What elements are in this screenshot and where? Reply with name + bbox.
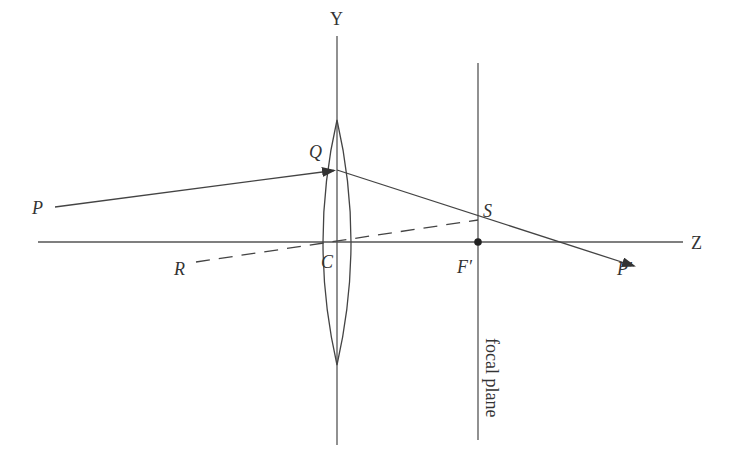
label-p-prime: P′ bbox=[616, 259, 633, 279]
focal-point-dot bbox=[474, 238, 482, 246]
label-p: P bbox=[31, 198, 43, 218]
label-z-axis: Z bbox=[691, 233, 702, 253]
label-q: Q bbox=[309, 142, 322, 162]
label-f-prime: F′ bbox=[456, 257, 473, 277]
label-y-axis: Y bbox=[330, 9, 343, 29]
label-focal-plane: focal plane bbox=[482, 338, 502, 417]
label-c: C bbox=[321, 252, 334, 272]
optics-diagram: Y Z P Q R S C F′ P′ focal plane bbox=[0, 0, 737, 465]
label-r: R bbox=[173, 259, 185, 279]
incident-ray bbox=[55, 171, 334, 208]
label-s: S bbox=[483, 201, 492, 221]
